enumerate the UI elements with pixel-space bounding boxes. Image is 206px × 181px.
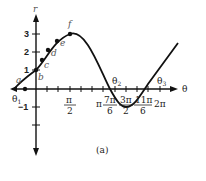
svg-text:π: π [66, 95, 72, 105]
svg-text:2: 2 [123, 106, 129, 116]
figure-caption: (a) [96, 145, 108, 155]
r-axis-label: r [33, 4, 38, 14]
svg-text:6: 6 [140, 106, 146, 116]
point-label-e: e [60, 38, 65, 48]
theta-1-label: θ1 [12, 94, 21, 105]
svg-text:7π: 7π [104, 95, 116, 105]
point-label-a: a [16, 75, 21, 85]
svg-text:2: 2 [67, 106, 73, 116]
y-tick-2: 2 [24, 47, 29, 57]
point-label-b: b [38, 72, 44, 82]
y-tick-1: 1 [24, 65, 29, 75]
svg-text:6: 6 [107, 106, 113, 116]
r-axis [32, 14, 40, 156]
x-tick-pi: π [96, 99, 102, 109]
svg-text:11π: 11π [135, 95, 152, 105]
theta-axis [10, 86, 178, 92]
polar-graph-diagram: r θ 3 2 1 −1 a b c d e f θ1 θ2 θ3 π 2 π … [0, 0, 206, 181]
theta-3-label: θ3 [157, 76, 166, 87]
x-tick-11pi-over-6: 11π 6 [134, 95, 152, 116]
theta-2-label: θ2 [112, 76, 121, 87]
point-label-f: f [67, 19, 73, 29]
point-label-d: d [51, 48, 57, 58]
y-tick-3: 3 [24, 29, 29, 39]
svg-text:3π: 3π [120, 95, 132, 105]
theta-axis-label: θ [182, 84, 187, 94]
point-label-c: c [44, 60, 49, 70]
x-tick-pi-over-2: π 2 [64, 95, 76, 116]
x-tick-2pi: 2π [154, 99, 166, 109]
x-tick-7pi-over-6: 7π 6 [103, 95, 117, 116]
